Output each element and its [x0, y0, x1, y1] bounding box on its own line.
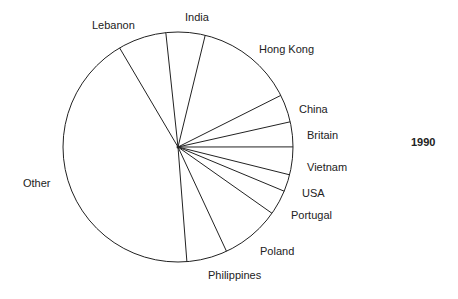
slice-label-poland: Poland [260, 246, 294, 257]
slice-label-lebanon: Lebanon [92, 20, 135, 31]
slice-label-china: China [299, 104, 328, 115]
slice-label-britain: Britain [307, 130, 338, 141]
pie-center [177, 146, 180, 149]
year-label: 1990 [411, 136, 435, 148]
slice-label-usa: USA [302, 188, 325, 199]
slice-label-philippines: Philippines [208, 270, 261, 281]
slice-label-portugal: Portugal [291, 210, 332, 221]
slice-label-vietnam: Vietnam [307, 162, 347, 173]
slice-label-hong-kong: Hong Kong [259, 44, 314, 55]
slice-label-other: Other [23, 178, 51, 189]
pie-chart [0, 0, 458, 299]
slice-label-india: India [185, 12, 209, 23]
